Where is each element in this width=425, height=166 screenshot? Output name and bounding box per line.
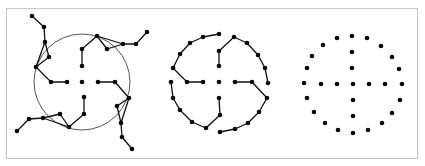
- network-edge: [171, 82, 173, 98]
- network-node: [323, 121, 328, 126]
- network-edge: [180, 110, 192, 122]
- network-node: [178, 52, 183, 57]
- network-node: [15, 129, 20, 134]
- network-node: [41, 116, 46, 121]
- network-node: [204, 126, 209, 131]
- network-node: [127, 96, 132, 101]
- network-edge: [32, 16, 44, 27]
- network-node: [312, 110, 317, 115]
- network-node: [319, 82, 324, 87]
- network-node: [120, 135, 125, 140]
- network-node: [351, 98, 356, 103]
- network-edge: [115, 82, 129, 98]
- network-node: [171, 96, 176, 101]
- network-edge: [203, 34, 219, 37]
- network-node: [82, 95, 87, 100]
- network-edge: [252, 82, 267, 98]
- network-node: [217, 49, 222, 54]
- network-edge: [45, 42, 49, 57]
- panels: [15, 14, 405, 152]
- network-node: [336, 128, 341, 133]
- network-node: [218, 130, 223, 135]
- network-edge: [219, 98, 220, 115]
- network-node: [321, 43, 326, 48]
- network-node: [380, 121, 385, 126]
- network-node: [218, 113, 223, 118]
- network-node: [121, 42, 126, 47]
- network-edge: [121, 98, 129, 123]
- network-node: [95, 34, 100, 39]
- network-node: [49, 80, 54, 85]
- network-node: [178, 108, 183, 113]
- network-node: [398, 98, 403, 103]
- network-node: [34, 65, 39, 70]
- network-node: [190, 120, 195, 125]
- network-node: [80, 80, 85, 85]
- network-edge: [43, 114, 60, 118]
- panel-middle: [169, 32, 271, 135]
- network-node: [266, 81, 271, 86]
- network-node: [145, 30, 150, 35]
- network-node: [58, 112, 63, 117]
- network-node: [65, 80, 70, 85]
- network-node: [42, 25, 47, 30]
- network-node: [302, 81, 307, 86]
- network-node: [80, 64, 85, 69]
- network-edge: [82, 36, 97, 49]
- network-node: [67, 125, 72, 130]
- network-edge: [17, 119, 29, 131]
- network-node: [397, 67, 402, 72]
- network-node: [366, 128, 371, 133]
- network-node: [305, 66, 310, 71]
- network-node: [96, 80, 101, 85]
- network-node: [400, 82, 405, 87]
- network-node: [250, 80, 255, 85]
- network-node: [232, 35, 237, 40]
- network-node: [379, 44, 384, 49]
- network-node: [201, 35, 206, 40]
- network-node: [47, 55, 52, 60]
- network-node: [365, 36, 370, 41]
- network-node: [30, 14, 35, 19]
- network-node: [245, 41, 250, 46]
- network-edge: [247, 43, 258, 55]
- network-edge: [36, 67, 51, 82]
- network-edge: [248, 112, 259, 123]
- som-diagram-figure: [0, 0, 425, 166]
- network-node: [171, 66, 176, 71]
- network-node: [310, 54, 315, 59]
- network-node: [113, 80, 118, 85]
- network-node: [217, 96, 222, 101]
- network-node: [217, 64, 222, 69]
- network-edge: [122, 137, 132, 149]
- network-edge: [173, 54, 180, 68]
- network-node: [169, 80, 174, 85]
- network-node: [217, 32, 222, 37]
- network-node: [305, 96, 310, 101]
- network-node: [233, 80, 238, 85]
- panel-right: [302, 34, 405, 136]
- network-node: [256, 53, 261, 58]
- network-edge: [259, 98, 267, 112]
- network-node: [217, 80, 222, 85]
- network-node: [383, 82, 388, 87]
- network-node: [27, 117, 32, 122]
- network-edge: [173, 68, 187, 82]
- network-node: [233, 127, 238, 132]
- network-node: [43, 40, 48, 45]
- network-node: [82, 112, 87, 117]
- network-node: [351, 114, 356, 119]
- network-node: [257, 110, 262, 115]
- network-node: [335, 82, 340, 87]
- network-node: [350, 66, 355, 71]
- network-node: [367, 82, 372, 87]
- network-node: [134, 42, 139, 47]
- network-node: [201, 80, 206, 85]
- network-node: [246, 121, 251, 126]
- network-node: [188, 41, 193, 46]
- network-node: [335, 36, 340, 41]
- network-node: [351, 82, 356, 87]
- network-edge: [206, 115, 220, 128]
- network-node: [80, 47, 85, 52]
- network-node: [115, 104, 120, 109]
